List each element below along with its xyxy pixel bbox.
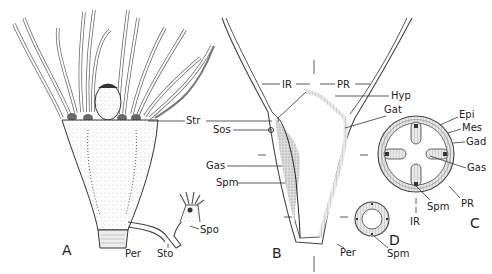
label-pr-c: PR bbox=[461, 198, 474, 209]
label-gad: Gad bbox=[466, 136, 486, 147]
scientific-figure: A Per Sto Spo Str Sos Gas Spm B IR PR bbox=[0, 0, 492, 274]
label-sto: Sto bbox=[157, 248, 173, 259]
label-gat: Gat bbox=[384, 104, 402, 115]
label-gas-b: Gas bbox=[206, 160, 225, 171]
panel-d-cross-section bbox=[355, 202, 389, 236]
label-per-a: Per bbox=[125, 248, 142, 259]
label-str: Str bbox=[186, 115, 201, 126]
label-spm-d: Spm bbox=[387, 248, 409, 259]
panel-a-polyp bbox=[14, 10, 214, 248]
label-spm-c: Spm bbox=[427, 201, 449, 212]
label-pr-top: PR bbox=[337, 79, 350, 90]
panel-label-d: D bbox=[389, 232, 400, 248]
label-spm-b: Spm bbox=[216, 177, 238, 188]
label-gas-c: Gas bbox=[467, 162, 486, 173]
label-hyp: Hyp bbox=[391, 90, 411, 101]
label-ir-c: IR bbox=[410, 216, 420, 227]
label-sos: Sos bbox=[213, 124, 231, 135]
label-mes: Mes bbox=[462, 122, 482, 133]
panel-label-c: C bbox=[470, 215, 480, 231]
label-per-b: Per bbox=[340, 247, 357, 258]
label-epi: Epi bbox=[459, 109, 474, 120]
figure-drawing: A Per Sto Spo Str Sos Gas Spm B IR PR bbox=[0, 0, 492, 274]
panel-label-a: A bbox=[62, 242, 72, 258]
panel-c-cross-section bbox=[378, 116, 454, 192]
panel-label-b: B bbox=[272, 245, 282, 261]
label-spo: Spo bbox=[200, 224, 219, 235]
label-ir-top: IR bbox=[282, 79, 292, 90]
